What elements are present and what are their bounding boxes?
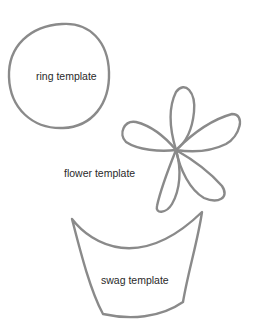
- flower-shape: [122, 87, 240, 212]
- swag-template-label: swag template: [101, 274, 169, 286]
- flower-template-label: flower template: [64, 167, 135, 179]
- ring-template-label: ring template: [36, 70, 97, 82]
- swag-shape: [72, 212, 202, 317]
